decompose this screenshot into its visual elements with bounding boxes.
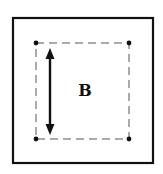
diagram-canvas: B xyxy=(0,0,163,174)
corner-point-top-right xyxy=(127,41,132,46)
corner-point-bottom-right xyxy=(127,137,132,142)
corner-point-bottom-left xyxy=(34,137,39,142)
region-label: B xyxy=(78,81,92,100)
corner-point-top-left xyxy=(34,41,39,46)
double-arrow-icon xyxy=(46,48,55,135)
